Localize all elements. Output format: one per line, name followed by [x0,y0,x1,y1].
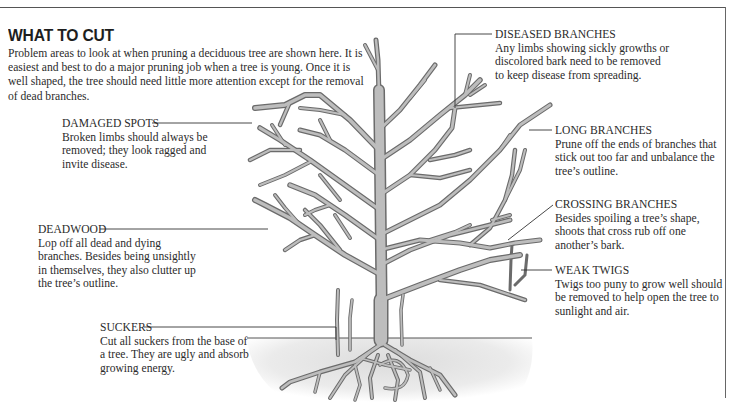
label-long-branches: LONG BRANCHES Prune off the ends of bran… [555,124,723,178]
label-damaged-spots: DAMAGED SPOTS Broken limbs should always… [62,117,212,171]
label-text: Besides spoiling a tree’s shape, shoots … [555,212,720,253]
leader-crossing [508,205,553,240]
label-heading: SUCKERS [100,321,250,335]
label-text: Broken limbs should always be removed; t… [62,131,212,172]
label-suckers: SUCKERS Cut all suckers from the base of… [100,321,250,375]
label-heading: WEAK TWIGS [555,264,723,278]
label-weak-twigs: WEAK TWIGS Twigs too puny to grow well s… [555,264,723,318]
label-text: Any limbs showing sickly growths or disc… [495,42,670,83]
label-diseased-branches: DISEASED BRANCHES Any limbs showing sick… [495,28,670,82]
leader-lines [100,34,553,340]
label-deadwood: DEADWOOD Lop off all dead and dying bran… [38,223,200,291]
label-text: Twigs too puny to grow well should be re… [555,278,723,319]
label-heading: DAMAGED SPOTS [62,117,212,131]
label-text: Lop off all dead and dying branches. Bes… [38,237,200,291]
label-text: Prune off the ends of branches that stic… [555,138,723,179]
label-heading: DISEASED BRANCHES [495,28,670,42]
label-text: Cut all suckers from the base of a tree.… [100,335,250,376]
label-heading: LONG BRANCHES [555,124,723,138]
label-heading: CROSSING BRANCHES [555,198,720,212]
label-heading: DEADWOOD [38,223,200,237]
label-crossing-branches: CROSSING BRANCHES Besides spoiling a tre… [555,198,720,252]
